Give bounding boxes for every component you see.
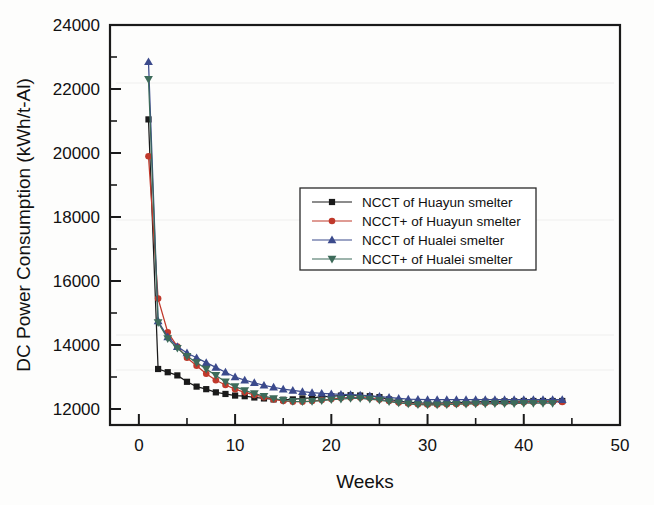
y-tick-label: 14000 [53,336,100,355]
data-point-square [329,199,335,205]
data-point-square [232,392,238,398]
data-point-square [203,386,209,392]
y-tick-label: 24000 [53,16,100,35]
legend-label: NCCT of Hualei smelter [362,233,505,248]
legend-label: NCCT of Huayun smelter [362,195,513,210]
x-tick-label: 0 [134,436,143,455]
legend-label: NCCT+ of Hualei smelter [362,252,513,267]
y-tick-label: 22000 [53,80,100,99]
data-point-square [174,372,180,378]
legend-label: NCCT+ of Huayun smelter [362,214,521,229]
x-tick-label: 50 [611,436,630,455]
x-tick-label: 30 [418,436,437,455]
data-point-triangle-up [211,363,220,371]
x-tick-label: 40 [514,436,533,455]
data-point-circle [145,153,152,160]
data-point-triangle-up [144,57,153,65]
y-tick-label: 16000 [53,272,100,291]
x-axis-title: Weeks [336,471,394,492]
y-tick-label: 20000 [53,144,100,163]
data-point-square [213,389,219,395]
data-point-square [184,379,190,385]
x-tick-label: 10 [226,436,245,455]
data-point-circle [155,295,162,302]
data-point-square [194,384,200,390]
data-point-square [155,366,161,372]
line-chart: 1200014000160001800020000220002400001020… [0,0,654,505]
data-point-triangle-up [221,368,230,376]
data-point-triangle-up [231,373,240,381]
y-tick-label: 12000 [53,400,100,419]
x-tick-label: 20 [322,436,341,455]
chart-figure: 1200014000160001800020000220002400001020… [0,0,654,505]
y-tick-label: 18000 [53,208,100,227]
data-point-triangle-down [144,76,153,84]
data-point-circle [329,218,336,225]
y-axis-title: DC Power Consumption (kWh/t-Al) [13,78,34,372]
data-point-square [165,369,171,375]
data-point-triangle-down [202,366,211,374]
data-point-triangle-up [202,358,211,366]
chart-legend: NCCT of Huayun smelterNCCT+ of Huayun sm… [300,188,536,270]
data-point-square [222,391,228,397]
